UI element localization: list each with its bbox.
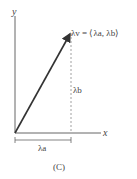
caption: (C) bbox=[53, 162, 65, 172]
vector-arrow bbox=[15, 34, 70, 133]
y-axis-label: y bbox=[11, 6, 17, 17]
x-axis-label: x bbox=[102, 127, 108, 138]
horizontal-component-label: λa bbox=[38, 143, 46, 153]
vector-label: λv = ⟨λa, λb⟩ bbox=[71, 28, 119, 38]
vertical-component-label: λb bbox=[73, 85, 82, 95]
vector-diagram: y x λv = ⟨λa, λb⟩ λb λa (C) bbox=[0, 0, 137, 179]
